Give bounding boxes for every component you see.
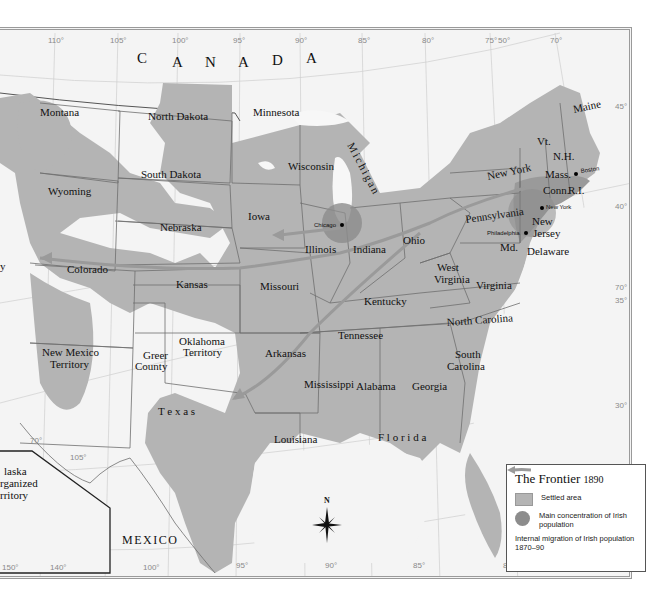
svg-text:Territory: Territory	[183, 346, 222, 358]
svg-text:R.I.: R.I.	[568, 184, 585, 196]
svg-text:West: West	[437, 261, 459, 273]
svg-text:50°: 50°	[498, 36, 510, 45]
svg-text:95°: 95°	[233, 36, 245, 45]
svg-text:Mississippi: Mississippi	[304, 378, 354, 390]
svg-text:Mass.: Mass.	[545, 168, 571, 180]
svg-text:F l o r i d a: F l o r i d a	[378, 431, 426, 443]
svg-text:Delaware: Delaware	[527, 245, 569, 257]
svg-text:75°: 75°	[485, 36, 497, 45]
svg-text:100°: 100°	[143, 563, 160, 572]
inset-tick-70: 70°	[30, 436, 42, 445]
svg-text:Wyoming: Wyoming	[48, 185, 92, 197]
svg-text:100°: 100°	[172, 36, 189, 45]
svg-text:Philadelphia: Philadelphia	[487, 230, 520, 236]
svg-text:Kansas: Kansas	[176, 278, 208, 290]
svg-text:105°: 105°	[110, 36, 127, 45]
svg-text:70°: 70°	[615, 283, 627, 292]
svg-text:Conn.: Conn.	[543, 184, 570, 196]
svg-text:Illinois: Illinois	[305, 243, 336, 255]
svg-text:80°: 80°	[422, 36, 434, 45]
svg-text:70°: 70°	[550, 36, 562, 45]
svg-text:A: A	[172, 54, 183, 70]
svg-text:90°: 90°	[325, 561, 337, 570]
svg-text:T e x a s: T e x a s	[158, 405, 195, 417]
svg-text:Wisconsin: Wisconsin	[288, 160, 334, 172]
svg-text:95°: 95°	[236, 561, 248, 570]
legend-item-irish-concentration: Main concentration of Irish population	[515, 511, 637, 529]
svg-text:30°: 30°	[615, 401, 627, 410]
label-mexico: MEXICO	[122, 533, 178, 547]
svg-text:North Dakota: North Dakota	[148, 110, 208, 122]
svg-text:N.H.: N.H.	[553, 150, 575, 162]
label-alaska-2: rganized	[0, 477, 38, 489]
svg-text:Iowa: Iowa	[248, 210, 270, 222]
svg-text:Virginia: Virginia	[434, 273, 470, 285]
svg-text:Vt.: Vt.	[537, 135, 551, 147]
svg-text:Alabama: Alabama	[356, 380, 396, 392]
svg-text:New York: New York	[546, 204, 572, 210]
longitude-ticks-top: 110° 105° 100° 95° 90° 85° 80° 75° 50° 7…	[48, 36, 562, 45]
svg-text:Georgia: Georgia	[412, 380, 447, 392]
legend-item-settled-area: Settled area	[515, 493, 637, 506]
svg-text:South: South	[455, 348, 481, 360]
svg-text:y: y	[0, 260, 6, 272]
inset-tick-105: 105°	[70, 453, 87, 462]
svg-text:Tennessee: Tennessee	[338, 329, 383, 341]
svg-text:Md.: Md.	[500, 241, 518, 253]
svg-text:Kentucky: Kentucky	[364, 295, 407, 307]
migration-arrow-icon	[507, 465, 531, 475]
svg-text:85°: 85°	[413, 561, 425, 570]
settled-area-swatch-icon	[515, 493, 533, 506]
svg-text:90°: 90°	[295, 36, 307, 45]
svg-text:Jersey: Jersey	[533, 227, 561, 239]
svg-text:N: N	[324, 496, 330, 505]
svg-text:35°: 35°	[615, 296, 627, 305]
svg-text:South Dakota: South Dakota	[141, 168, 201, 180]
svg-text:C: C	[137, 50, 147, 66]
svg-text:Territory: Territory	[50, 358, 89, 370]
svg-text:110°: 110°	[48, 36, 64, 45]
svg-text:140°: 140°	[50, 563, 67, 572]
label-alaska-3: rritory	[0, 489, 29, 501]
svg-text:A: A	[306, 50, 317, 66]
svg-text:Missouri: Missouri	[260, 280, 299, 292]
legend-item-migration: Internal migration of Irish population 1…	[515, 534, 637, 552]
label-alaska-1: laska	[4, 465, 27, 477]
label-canada: C A N A D A	[137, 50, 317, 70]
svg-text:Arkansas: Arkansas	[265, 347, 306, 359]
svg-text:40°: 40°	[615, 202, 627, 211]
svg-text:Carolina: Carolina	[447, 360, 485, 372]
svg-text:Louisiana: Louisiana	[274, 433, 317, 445]
settled-area-new-mexico	[30, 273, 93, 410]
svg-text:New Mexico: New Mexico	[42, 346, 100, 358]
svg-text:A: A	[238, 54, 249, 70]
svg-text:Colorado: Colorado	[67, 263, 108, 275]
svg-text:New: New	[532, 215, 553, 227]
svg-text:Ohio: Ohio	[403, 234, 426, 246]
svg-text:N: N	[205, 54, 216, 70]
svg-text:45°: 45°	[615, 102, 627, 111]
svg-text:Chicago: Chicago	[314, 222, 337, 228]
svg-text:85°: 85°	[358, 36, 370, 45]
svg-text:D: D	[272, 52, 283, 68]
svg-text:Nebraska: Nebraska	[160, 221, 202, 233]
svg-text:Montana: Montana	[40, 106, 79, 118]
svg-text:Minnesota: Minnesota	[253, 106, 300, 118]
svg-text:County: County	[135, 360, 168, 372]
svg-text:Indiana: Indiana	[353, 243, 386, 255]
map-legend: The Frontier 1890 Settled area Main conc…	[506, 464, 646, 572]
svg-text:Virginia: Virginia	[476, 279, 512, 291]
irish-concentration-dot-icon	[515, 511, 530, 526]
svg-text:Boston: Boston	[580, 165, 599, 174]
legend-title: The Frontier 1890	[515, 471, 637, 487]
gulf-of-mexico	[251, 443, 433, 563]
svg-text:150°: 150°	[2, 563, 19, 572]
